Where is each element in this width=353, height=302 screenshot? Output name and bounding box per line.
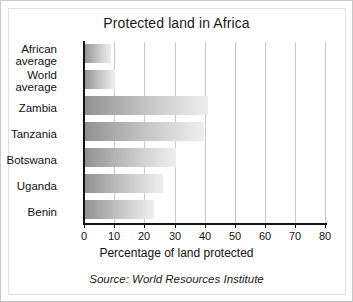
chart-figure: Protected land in Africa 0 10 20 30 40 5… (0, 0, 353, 302)
source-note: Source: World Resources Institute (1, 273, 352, 285)
gridline-70 (295, 42, 296, 223)
bar-world-average (84, 70, 115, 89)
bar-african-average (84, 44, 111, 63)
x-tick-label-50: 50 (229, 230, 241, 242)
x-tick-label-10: 10 (108, 230, 120, 242)
category-label-botswana: Botswana (0, 154, 57, 166)
x-tick-label-30: 30 (169, 230, 181, 242)
category-label-uganda: Uganda (0, 180, 57, 192)
category-label-world-average: World average (0, 69, 57, 93)
bar-botswana (84, 148, 176, 167)
category-label-line2: average (0, 55, 57, 67)
bar-benin (84, 200, 154, 219)
category-label-line1: Uganda (0, 180, 57, 192)
x-tick-60 (265, 223, 266, 228)
x-tick-label-0: 0 (81, 230, 87, 242)
category-label-tanzania: Tanzania (0, 128, 57, 140)
x-tick-10 (114, 223, 115, 228)
x-tick-50 (235, 223, 236, 228)
bar-zambia (84, 96, 208, 115)
category-label-line1: Benin (0, 206, 57, 218)
x-tick-label-70: 70 (289, 230, 301, 242)
category-label-zambia: Zambia (0, 102, 57, 114)
x-tick-label-60: 60 (259, 230, 271, 242)
category-label-line2: average (0, 81, 57, 93)
category-label-line1: Tanzania (0, 128, 57, 140)
gridline-40 (205, 42, 206, 223)
y-axis-line (83, 41, 85, 224)
category-label-line1: Zambia (0, 102, 57, 114)
x-tick-30 (175, 223, 176, 228)
chart-title: Protected land in Africa (1, 15, 352, 31)
x-tick-80 (325, 223, 326, 228)
category-label-line1: African (0, 43, 57, 55)
x-tick-40 (205, 223, 206, 228)
x-tick-label-20: 20 (138, 230, 150, 242)
x-tick-20 (144, 223, 145, 228)
bar-tanzania (84, 122, 204, 141)
category-label-line1: World (0, 69, 57, 81)
gridline-60 (265, 42, 266, 223)
x-tick-label-40: 40 (199, 230, 211, 242)
gridline-50 (235, 42, 236, 223)
category-label-benin: Benin (0, 206, 57, 218)
x-tick-label-80: 80 (319, 230, 331, 242)
gridline-80 (325, 42, 326, 223)
bar-uganda (84, 174, 163, 193)
x-tick-70 (295, 223, 296, 228)
x-axis-label: Percentage of land protected (1, 246, 352, 260)
plot-area (84, 42, 326, 223)
category-label-line1: Botswana (0, 154, 57, 166)
category-label-african-average: African average (0, 43, 57, 67)
x-tick-0 (84, 223, 85, 228)
